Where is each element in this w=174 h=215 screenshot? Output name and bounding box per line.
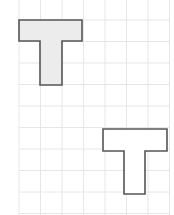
t-shape-shaded (19, 20, 82, 85)
t-shape-outline (103, 129, 167, 194)
grid-diagram (0, 0, 174, 215)
